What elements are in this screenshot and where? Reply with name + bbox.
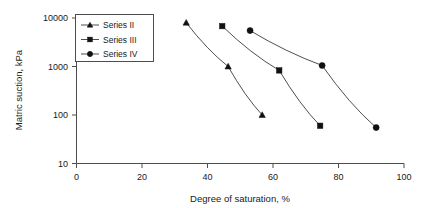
data-point-marker-square (277, 68, 282, 73)
y-tick-label: 10 (58, 159, 68, 169)
data-point-marker-circle (247, 28, 253, 34)
data-point-marker-square (88, 37, 93, 42)
data-series (247, 28, 379, 131)
series-line (250, 31, 376, 128)
y-tick-label: 1000 (48, 62, 68, 72)
data-series (183, 20, 265, 118)
x-tick-label: 100 (396, 172, 411, 182)
x-tick-label: 80 (333, 172, 343, 182)
series-line (186, 23, 262, 115)
data-point-marker-circle (87, 51, 92, 56)
x-axis-title: Degree of saturation, % (190, 193, 290, 204)
data-series (220, 23, 323, 128)
x-tick-label: 20 (137, 172, 147, 182)
y-tick-label: 10000 (43, 13, 68, 23)
legend: Series IISeries IIISeries IV (81, 20, 138, 59)
data-point-marker-square (317, 123, 322, 128)
legend-item-label: Series IV (103, 49, 138, 59)
data-point-marker-triangle (183, 20, 189, 26)
legend-item-label: Series II (103, 20, 134, 30)
x-tick-label: 40 (202, 172, 212, 182)
x-tick-label: 60 (268, 172, 278, 182)
chart-plot-area: 10100100010000 020406080100 Degree of sa… (0, 0, 424, 208)
y-axis-title: Matric suction, kPa (13, 49, 24, 130)
data-series-layer (183, 20, 379, 131)
x-tick-label: 0 (74, 172, 79, 182)
y-axis-ticks: 10100100010000 (43, 13, 77, 169)
data-point-marker-circle (319, 62, 325, 68)
data-point-marker-square (220, 23, 225, 28)
chart-container: 10100100010000 020406080100 Degree of sa… (0, 0, 424, 208)
data-point-marker-circle (373, 125, 379, 131)
y-tick-label: 100 (53, 110, 68, 120)
series-line (222, 26, 320, 126)
x-axis-ticks: 020406080100 (74, 164, 412, 183)
legend-item-label: Series III (103, 35, 137, 45)
